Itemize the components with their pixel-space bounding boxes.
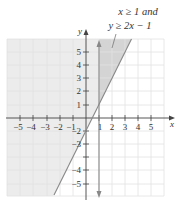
svg-text:1: 1: [77, 100, 82, 110]
y-axis-label: y: [77, 26, 82, 36]
svg-text:5: 5: [149, 122, 154, 132]
svg-text:−2: −2: [71, 126, 81, 136]
svg-text:3: 3: [77, 73, 82, 83]
caption-line-2: y ≥ 2x − 1: [107, 20, 151, 31]
svg-text:−4: −4: [26, 122, 36, 132]
caption-line-1: x ≥ 1 and: [117, 6, 158, 17]
svg-text:2: 2: [110, 122, 115, 132]
svg-text:−5: −5: [71, 179, 81, 189]
svg-text:2: 2: [77, 86, 82, 96]
svg-text:1: 1: [98, 122, 103, 132]
svg-text:−3: −3: [71, 139, 81, 149]
svg-text:4: 4: [77, 60, 82, 70]
svg-text:4: 4: [136, 122, 141, 132]
x-axis-label: x: [169, 119, 174, 129]
svg-text:−2: −2: [53, 122, 63, 132]
inequality-graph: y x −5 −4 −3 −2 −1 1 2 3 4 5 5 4 3 2 1 −…: [0, 0, 183, 206]
svg-text:3: 3: [123, 122, 128, 132]
svg-text:−4: −4: [71, 165, 81, 175]
svg-text:−5: −5: [13, 122, 23, 132]
svg-text:−3: −3: [40, 122, 50, 132]
svg-text:5: 5: [77, 47, 82, 57]
